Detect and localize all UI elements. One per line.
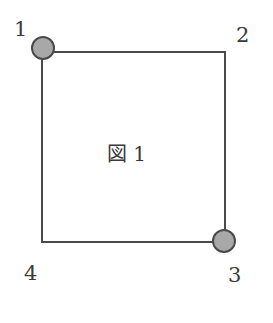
figure-title: 図 1 (107, 142, 146, 166)
corner-1-node-icon (32, 37, 54, 59)
square-diagram: 1 2 3 4 図 1 (0, 0, 273, 323)
corner-label-3: 3 (228, 263, 241, 287)
corner-label-2: 2 (236, 23, 249, 47)
corner-label-4: 4 (24, 261, 37, 285)
corner-3-node-icon (213, 230, 235, 252)
corner-label-1: 1 (14, 17, 27, 41)
